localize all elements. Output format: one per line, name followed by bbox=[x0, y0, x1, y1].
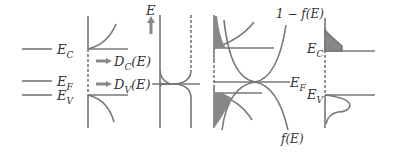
arrows bbox=[96, 61, 106, 84]
one-minus-f-curve bbox=[224, 20, 286, 82]
ec-label: EC bbox=[57, 43, 73, 60]
product-ef-label-main: E bbox=[290, 75, 300, 90]
fermi-panel bbox=[152, 15, 200, 128]
product-ef-label-sub: F bbox=[300, 83, 306, 93]
carrier-ec-label: EC bbox=[307, 42, 323, 59]
dc-label-suffix: (E) bbox=[131, 54, 151, 69]
dc-arrow-head bbox=[106, 58, 112, 64]
energy-axis-label: E bbox=[146, 4, 156, 17]
ev-label: EV bbox=[57, 89, 73, 106]
carrier-ec-label-main: E bbox=[307, 41, 317, 56]
ev-label-sub: V bbox=[67, 96, 74, 106]
ec-label-main: E bbox=[57, 42, 67, 57]
carrier-ec-label-sub: C bbox=[317, 49, 324, 59]
f-label: f(E) bbox=[281, 133, 304, 145]
dv-label-main: D bbox=[114, 77, 124, 92]
dv-curve bbox=[88, 95, 114, 122]
carrier-ev-label-sub: V bbox=[317, 95, 324, 105]
product-panel bbox=[214, 15, 290, 130]
product-ef-label: EF bbox=[290, 76, 306, 93]
ef-label-main: E bbox=[57, 74, 67, 89]
electron-distribution-fill bbox=[325, 30, 342, 51]
dos-panel bbox=[88, 16, 128, 128]
ev-label-main: E bbox=[57, 88, 67, 103]
hole-distribution-curve bbox=[325, 95, 350, 124]
dc-curve bbox=[88, 24, 116, 49]
dv-arrow-head bbox=[106, 81, 112, 87]
semiconductor-band-diagram: EC EF EV DC(E) DV(E) E 1 − f(E) f(E) EF … bbox=[0, 0, 395, 154]
one-minus-f-label: 1 − f(E) bbox=[276, 8, 324, 20]
f-curve bbox=[222, 82, 288, 130]
dc-label-main: D bbox=[114, 54, 124, 69]
dv-label: DV(E) bbox=[114, 78, 151, 95]
ec-label-sub: C bbox=[67, 50, 74, 60]
carrier-ev-label: EV bbox=[307, 88, 323, 105]
carrier-ev-label-main: E bbox=[307, 87, 317, 102]
dc-label: DC(E) bbox=[114, 55, 151, 72]
carrier-panel bbox=[325, 18, 375, 128]
dv-label-suffix: (E) bbox=[131, 77, 151, 92]
